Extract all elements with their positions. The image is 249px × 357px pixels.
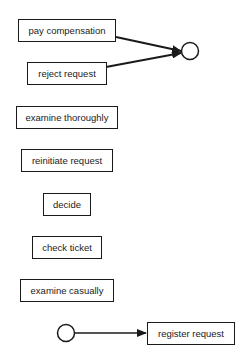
task-label: reinitiate request bbox=[32, 155, 102, 166]
task-label: reject request bbox=[38, 68, 96, 79]
process-diagram: pay compensation reject request examine … bbox=[0, 0, 249, 357]
start-place-icon[interactable] bbox=[58, 325, 75, 342]
task-label: examine casually bbox=[31, 285, 104, 296]
task-label: pay compensation bbox=[28, 25, 105, 36]
edge-pay-compensation-to-end bbox=[116, 37, 181, 51]
edge-reject-request-to-end bbox=[106, 53, 181, 67]
task-pay-compensation[interactable]: pay compensation bbox=[18, 19, 116, 42]
task-register-request[interactable]: register request bbox=[147, 322, 235, 345]
task-examine-thoroughly[interactable]: examine thoroughly bbox=[16, 106, 118, 129]
diagram-edges bbox=[0, 0, 249, 357]
task-label: decide bbox=[53, 199, 81, 210]
end-place-icon[interactable] bbox=[182, 43, 199, 60]
task-decide[interactable]: decide bbox=[43, 193, 91, 216]
task-examine-casually[interactable]: examine casually bbox=[20, 279, 114, 302]
task-label: examine thoroughly bbox=[26, 112, 109, 123]
task-reinitiate-request[interactable]: reinitiate request bbox=[21, 149, 113, 172]
task-check-ticket[interactable]: check ticket bbox=[32, 236, 102, 259]
task-label: register request bbox=[158, 328, 224, 339]
task-reject-request[interactable]: reject request bbox=[27, 62, 107, 85]
task-label: check ticket bbox=[42, 242, 92, 253]
